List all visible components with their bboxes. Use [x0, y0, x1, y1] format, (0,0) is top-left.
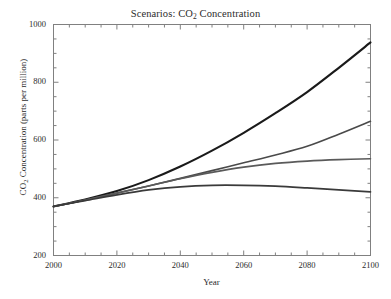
x-tick-label: 2100 — [351, 260, 391, 270]
y-tick-label: 400 — [12, 192, 46, 202]
data-series — [54, 42, 371, 206]
plot-canvas — [0, 0, 391, 299]
y-tick-label: 800 — [12, 76, 46, 86]
x-tick-label: 2000 — [34, 260, 74, 270]
x-tick-label: 2060 — [224, 260, 264, 270]
series-line-medium-low-scenario — [54, 159, 371, 207]
y-tick-label: 200 — [12, 250, 46, 260]
x-tick-label: 2040 — [160, 260, 200, 270]
chart-figure: Scenarios: CO2 Concentration 20040060080… — [0, 0, 391, 299]
x-tick-label: 2020 — [97, 260, 137, 270]
y-tick-label: 1000 — [12, 19, 46, 29]
x-tick-label: 2080 — [287, 260, 327, 270]
series-line-medium-high-scenario — [54, 121, 371, 206]
y-tick-label: 600 — [12, 134, 46, 144]
x-axis-label: Year — [53, 277, 370, 287]
series-line-high-scenario — [54, 42, 371, 206]
